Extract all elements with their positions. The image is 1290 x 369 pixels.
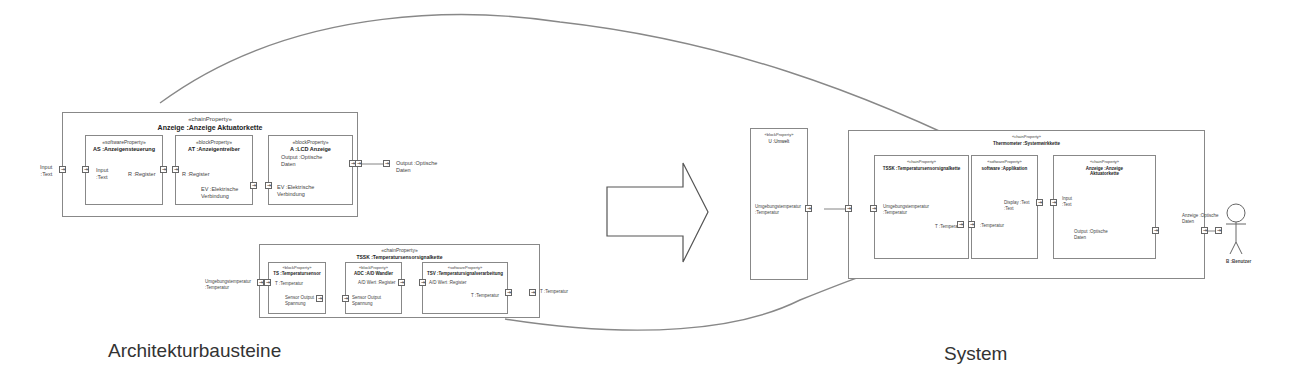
stereotype-label: «chainProperty» <box>849 134 1204 139</box>
port-icon[interactable]: ⇥ <box>264 279 271 286</box>
stereotype-label: «blockProperty» <box>176 139 252 145</box>
port-icon[interactable]: ⇥ <box>172 166 179 173</box>
block-anzeigentreiber[interactable]: «blockProperty» AT :Anzeigentreiber R :R… <box>175 135 253 205</box>
port-label: R :Register <box>128 171 156 178</box>
block-name: AS :Anzeigensteuerung <box>86 146 162 152</box>
stereotype-label: «softwareProperty» <box>972 159 1037 164</box>
port-icon[interactable]: ⇥ <box>316 295 323 302</box>
port-label: T :Temperatur <box>275 281 303 287</box>
port-icon[interactable]: ⇥ <box>957 221 964 228</box>
port-icon[interactable]: ⇥ <box>419 279 426 286</box>
port-label: Input :Text <box>96 167 108 181</box>
caption-system: System <box>944 343 1007 365</box>
user-name-label: B :Benutzer <box>1226 259 1251 265</box>
port-icon[interactable]: ⇥ <box>1201 227 1208 234</box>
port-icon[interactable]: ⇥ <box>1050 199 1057 206</box>
port-label: Input :Text <box>1062 196 1072 208</box>
port-icon[interactable]: ⇥ <box>529 289 536 296</box>
port-icon[interactable]: ⇥ <box>1215 227 1222 234</box>
external-output-label: T :Temperatur <box>540 289 568 295</box>
stereotype-label: «chainProperty» <box>260 247 539 253</box>
stereotype-label: «softwareProperty» <box>86 139 162 145</box>
caption-architekturbausteine: Architekturbausteine <box>108 340 281 362</box>
port-label: EV :Elektrische Verbindung <box>201 186 238 200</box>
port-icon[interactable]: ⇥ <box>257 279 264 286</box>
port-icon[interactable]: ⇥ <box>398 279 405 286</box>
port-label: Sensor Output Spannung <box>285 295 314 307</box>
port-icon[interactable]: ⇥ <box>870 205 877 212</box>
stereotype-label: «blockProperty» <box>269 265 325 270</box>
system-block-sensor-chain[interactable]: «chainProperty» TSSK :Temperatursensorsi… <box>874 155 969 259</box>
port-label: Umgebungstemperatur :Temperatur <box>755 204 801 216</box>
block-name: A :LCD Anzeige <box>269 146 352 152</box>
system-output-label: Anzeige :Optische Daten <box>1182 213 1219 225</box>
port-label: Display :Text :Text <box>1004 200 1030 212</box>
port-icon[interactable]: ⇥ <box>845 205 852 212</box>
user-actor-icon <box>1226 204 1246 254</box>
port-icon[interactable]: ⇥ <box>250 182 257 189</box>
port-icon[interactable]: ⇥ <box>160 166 167 173</box>
port-icon[interactable]: ⇥ <box>82 166 89 173</box>
block-anzeigensteuerung[interactable]: «softwareProperty» AS :Anzeigensteuerung… <box>85 135 163 205</box>
system-block-anzeige-chain[interactable]: «chainProperty» Anzeige :Anzeige Aktuato… <box>1053 155 1156 259</box>
port-icon[interactable]: ⇥ <box>1036 199 1043 206</box>
port-icon[interactable]: ⇥ <box>59 166 66 173</box>
block-ad-wandler[interactable]: «blockProperty» ADC :A/D Wandler A/D Wer… <box>345 262 402 314</box>
stereotype-label: «chainProperty» <box>875 159 968 164</box>
block-name: TSSK :Temperatursensorsignalkette <box>875 166 968 171</box>
port-label: Umgebungstemperatur :Temperatur <box>883 204 929 216</box>
system-block-software-app[interactable]: «softwareProperty» software :Applikation… <box>971 155 1038 259</box>
stereotype-label: «chainProperty» <box>1054 159 1155 164</box>
block-name: AT :Anzeigentreiber <box>176 146 252 152</box>
port-icon[interactable]: ⇥ <box>805 205 812 212</box>
port-icon[interactable]: ⇥ <box>1152 227 1159 234</box>
stereotype-label: «softwareProperty» <box>423 265 507 270</box>
port-label: R :Register <box>182 171 210 178</box>
block-name: Anzeige :Anzeige Aktuatorkette <box>1054 166 1155 176</box>
port-icon[interactable]: ⇥ <box>505 289 512 296</box>
chain-name: TSSK :Temperatursensorsignalkette <box>260 254 539 260</box>
block-lcd-anzeige[interactable]: «blockProperty» A :LCD Anzeige Output :O… <box>268 135 353 205</box>
port-label: :Temperatur <box>980 223 1004 229</box>
block-name: software :Applikation <box>972 166 1037 171</box>
chain-name: Anzeige :Anzeige Aktuatorkette <box>63 124 357 131</box>
block-name: ADC :A/D Wandler <box>346 271 401 276</box>
port-icon[interactable]: ⇥ <box>342 295 349 302</box>
chain-name: Thermometer :Systemwirkkette <box>849 141 1204 146</box>
block-name: TSV :Temperatursignalverarbeitung <box>423 271 507 276</box>
environment-block[interactable]: «blockProperty» U :Umwelt Umgebungstempe… <box>750 128 808 280</box>
port-label: EV :Elektrische Verbindung <box>277 184 314 198</box>
block-name: U :Umwelt <box>751 139 807 144</box>
port-label: A/D Wert :Register <box>429 280 466 286</box>
external-input-label: Umgebungstemperatur :Temperatur <box>205 279 251 291</box>
port-icon[interactable]: ⇥ <box>383 160 390 167</box>
port-label: Sensor Output Spannung <box>352 295 381 307</box>
external-output-label: Output :Optische Daten <box>396 160 437 174</box>
port-icon[interactable]: ⇥ <box>968 221 975 228</box>
port-icon[interactable]: ⇥ <box>355 160 362 167</box>
stereotype-label: «blockProperty» <box>269 139 352 145</box>
block-temperatursignalverarbeitung[interactable]: «softwareProperty» TSV :Temperatursignal… <box>422 262 508 314</box>
port-label: Output :Optische Daten <box>281 154 322 168</box>
port-label: Output :Optische Daten <box>1074 229 1108 241</box>
transform-arrow-icon <box>607 163 708 262</box>
port-label: T :Temperatur <box>471 293 499 299</box>
port-label: A/D Wert :Register <box>358 280 395 286</box>
block-name: TS :Temperatursensor <box>269 271 325 276</box>
stereotype-label: «blockProperty» <box>751 132 807 137</box>
block-temperatursensor[interactable]: «blockProperty» TS :Temperatursensor T :… <box>268 262 326 314</box>
port-icon[interactable]: ⇥ <box>265 182 272 189</box>
stereotype-label: «blockProperty» <box>346 265 401 270</box>
external-input-label: Input :Text <box>40 164 52 178</box>
stereotype-label: «chainProperty» <box>63 116 357 122</box>
